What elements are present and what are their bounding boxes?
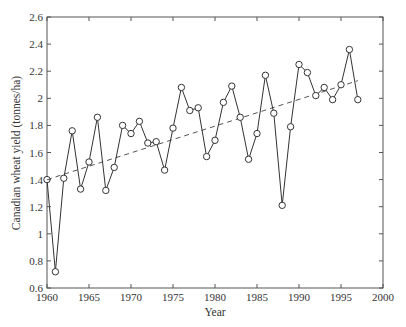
y-tick-label: 2.4 xyxy=(29,38,43,50)
data-point-marker xyxy=(128,130,134,136)
data-point-marker xyxy=(321,84,327,90)
data-point-marker xyxy=(245,156,251,162)
data-point-marker xyxy=(355,96,361,102)
y-tick-label: 1.6 xyxy=(29,147,43,159)
data-point-marker xyxy=(338,82,344,88)
data-point-marker xyxy=(195,105,201,111)
data-point-marker xyxy=(287,124,293,130)
data-point-marker xyxy=(237,114,243,120)
data-point-marker xyxy=(61,175,67,181)
y-tick-label: 2.6 xyxy=(29,11,43,23)
x-axis-label: Year xyxy=(204,306,225,318)
data-point-marker xyxy=(94,114,100,120)
x-tick-label: 1980 xyxy=(204,291,227,303)
yield-line xyxy=(47,50,358,272)
data-point-marker xyxy=(170,125,176,131)
data-point-marker xyxy=(161,167,167,173)
data-point-marker xyxy=(77,186,83,192)
data-point-marker xyxy=(212,137,218,143)
y-axis-label: Canadian wheat yield (tonnes/ha) xyxy=(10,76,23,230)
data-point-marker xyxy=(103,187,109,193)
data-point-marker xyxy=(271,110,277,116)
x-tick-label: 1970 xyxy=(120,291,143,303)
data-point-marker xyxy=(136,118,142,124)
y-tick-label: 2 xyxy=(38,92,44,104)
x-tick-label: 1995 xyxy=(330,291,353,303)
data-point-marker xyxy=(153,138,159,144)
yield-series xyxy=(44,46,361,275)
data-point-marker xyxy=(262,72,268,78)
data-point-marker xyxy=(329,96,335,102)
plot-frame xyxy=(47,17,383,288)
y-tick-label: 1.2 xyxy=(29,201,43,213)
data-point-marker xyxy=(229,83,235,89)
data-point-marker xyxy=(220,99,226,105)
data-point-marker xyxy=(304,69,310,75)
y-tick-label: 2.2 xyxy=(29,65,43,77)
x-tick-label: 1985 xyxy=(246,291,269,303)
data-point-marker xyxy=(145,140,151,146)
y-tick-label: 0.6 xyxy=(29,282,43,294)
x-tick-label: 2000 xyxy=(372,291,395,303)
data-point-marker xyxy=(111,164,117,170)
y-tick-label: 1.8 xyxy=(29,119,43,131)
x-tick-label: 1990 xyxy=(288,291,311,303)
data-point-marker xyxy=(119,122,125,128)
axes xyxy=(47,17,383,288)
data-point-marker xyxy=(296,61,302,67)
chart-canvas: 196019651970197519801985199019952000 0.6… xyxy=(0,0,406,327)
data-point-marker xyxy=(187,107,193,113)
y-tick-label: 0.8 xyxy=(29,255,43,267)
data-point-marker xyxy=(346,46,352,52)
data-point-marker xyxy=(86,159,92,165)
data-point-marker xyxy=(203,153,209,159)
data-point-marker xyxy=(254,130,260,136)
y-tick-label: 1 xyxy=(38,228,44,240)
x-tick-label: 1965 xyxy=(78,291,101,303)
data-point-marker xyxy=(279,202,285,208)
y-tick-label: 1.4 xyxy=(29,174,43,186)
data-point-marker xyxy=(52,269,58,275)
data-point-marker xyxy=(178,84,184,90)
data-point-marker xyxy=(313,92,319,98)
data-point-marker xyxy=(69,128,75,134)
x-tick-label: 1975 xyxy=(162,291,185,303)
